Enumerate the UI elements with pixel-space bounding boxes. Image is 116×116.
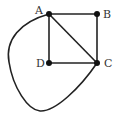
node-label-d: D [36,58,45,69]
node-c [94,60,100,66]
node-d [46,60,52,66]
graph-diagram: A B C D [0,0,116,116]
node-label-c: C [104,58,112,69]
graph-canvas [0,0,116,116]
node-label-a: A [35,5,43,16]
edge-a-c [49,14,97,63]
node-a [46,11,52,17]
node-b [94,11,100,17]
node-label-b: B [103,9,111,20]
